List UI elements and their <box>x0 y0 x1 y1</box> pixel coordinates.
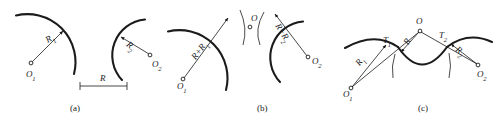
label-tangent-t1-c: T1 <box>383 36 391 47</box>
construction-arc-right <box>258 12 264 45</box>
label-center-o2-b: O2 <box>312 57 322 68</box>
construction-tick-right-c <box>449 53 451 78</box>
label-center-o1-a: O1 <box>26 70 36 81</box>
tangent-arc-c <box>398 47 447 65</box>
caption-panel-b: (b) <box>257 103 268 113</box>
center-dot-o2a <box>148 53 152 57</box>
radius-line-1c <box>352 45 386 87</box>
label-center-o2-c: O2 <box>477 70 487 81</box>
label-center-o1-c: O1 <box>343 90 353 101</box>
label-center-o-c: O <box>416 17 423 26</box>
label-center-o1-b: O1 <box>177 82 187 93</box>
construction-tick-left-c <box>392 54 395 78</box>
caption-panel-c: (c) <box>418 103 428 113</box>
arc-1a <box>16 14 75 74</box>
arc-2c <box>447 38 492 47</box>
caption-panel-a: (a) <box>70 103 80 113</box>
label-center-o-b: O <box>251 14 258 23</box>
label-center-o2-a: O2 <box>152 60 162 71</box>
center-dot-o1a <box>29 61 33 65</box>
label-tangent-t2-c: T2 <box>439 31 447 42</box>
figure-ogee-curve-construction: O1 R1 O2 R2 R (a) O1 R+R1 O R+R2 O2 (b) … <box>0 0 498 121</box>
panel-c-graphics <box>345 29 492 90</box>
label-distance-r-a: R <box>100 74 106 83</box>
intersection-dot-ob <box>248 25 252 29</box>
panel-b-graphics <box>168 10 310 90</box>
construction-arc-left <box>240 10 245 45</box>
